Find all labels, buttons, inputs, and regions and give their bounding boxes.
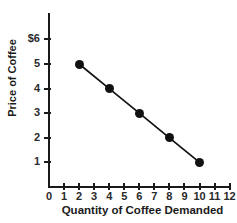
data-point-0 xyxy=(75,60,84,69)
x-axis-title: Quantity of Coffee Demanded xyxy=(48,204,237,216)
plot-area: 12345$6 0123456789101112 Price of Coffee… xyxy=(0,0,237,223)
data-point-1 xyxy=(105,84,114,93)
chart-figure: xxx xx 12345$6 0123456789101112 Price of… xyxy=(0,0,237,223)
y-axis-title: Price of Coffee xyxy=(6,23,18,133)
demand-curve-line xyxy=(0,0,237,223)
data-point-4 xyxy=(195,158,204,167)
data-point-2 xyxy=(135,109,144,118)
